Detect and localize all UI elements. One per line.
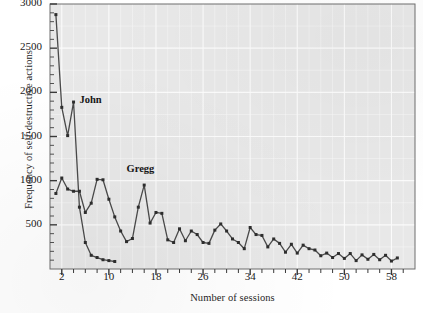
x-tick-34: 34: [235, 270, 265, 282]
x-tick-26: 26: [188, 270, 218, 282]
x-tick-42: 42: [282, 270, 312, 282]
x-tick-58: 58: [376, 270, 406, 282]
x-tick-2: 2: [47, 270, 77, 282]
series-label-gregg: Gregg: [127, 163, 155, 174]
x-axis-title: Number of sessions: [50, 292, 415, 303]
x-tick-18: 18: [141, 270, 171, 282]
x-tick-10: 10: [94, 270, 124, 282]
series-label-john: John: [79, 94, 101, 105]
chart-figure: 50010001500200025003000 210182634425058 …: [0, 0, 423, 313]
x-tick-50: 50: [329, 270, 359, 282]
x-axis-tick-labels: 210182634425058: [0, 0, 423, 313]
y-axis-title: Frequency of self-destructive actions: [23, 5, 34, 255]
